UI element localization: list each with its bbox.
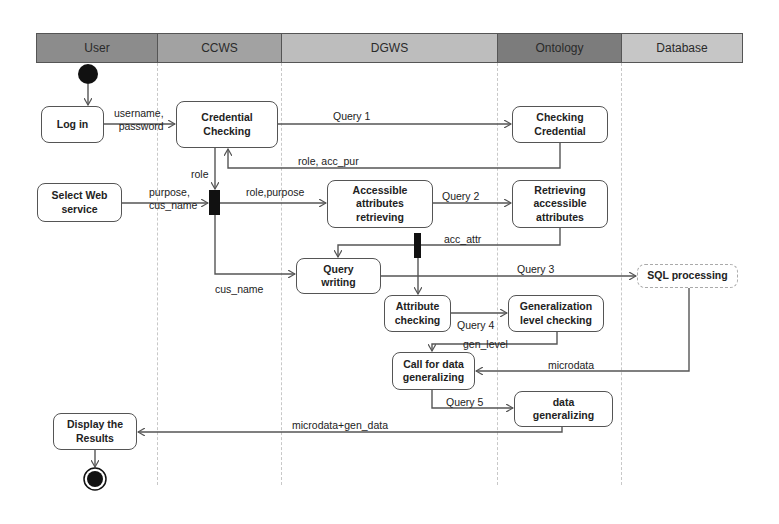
join-bar-icon [209,190,220,215]
edge-label-query5: Query 5 [446,396,483,409]
edge-label-query4: Query 4 [457,319,494,332]
node-accessible-attributes-retrieving: Accessible attributes retrieving [327,180,433,228]
edge-label-query3: Query 3 [517,263,554,276]
node-checking-credential: Checking Credential [512,106,608,143]
node-label: Display the Results [67,418,123,444]
node-label: Query writing [321,263,355,289]
node-data-generalizing: data generalizing [514,391,613,427]
node-label: data generalizing [533,396,594,422]
node-label: SQL processing [647,269,727,282]
node-label: Select Web service [52,189,108,215]
edge-label-acc-attr: acc_attr [444,233,481,246]
node-label: Accessible attributes retrieving [353,184,408,223]
node-sql-processing: SQL processing [637,264,738,288]
edge-label-purpose-cus-name: purpose, cus_name [149,186,197,211]
edge-label-microdata: microdata [548,359,594,372]
edge-label-cus-name: cus_name [215,283,263,296]
activity-diagram: User CCWS DGWS Ontology Database [0,0,779,524]
edge-label-role-purpose: role,purpose [246,186,304,199]
node-generalization-level-checking: Generalization level checking [508,295,604,332]
node-retrieving-accessible-attributes: Retrieving accessible attributes [512,180,608,228]
node-call-for-data-generalizing: Call for data generalizing [392,352,475,390]
node-label: Checking Credential [534,111,585,137]
start-node-icon [78,64,98,84]
edge-label-username-password: username, password [114,107,164,132]
node-label: Retrieving accessible attributes [533,184,586,223]
node-credential-checking: Credential Checking [176,101,278,148]
edge-label-role: role [191,168,209,181]
node-label: Credential Checking [201,111,252,137]
edge-label-microdata-gen-data: microdata+gen_data [292,419,388,432]
edge-label-gen-level: gen_level [463,338,508,351]
node-label: Generalization level checking [520,300,592,326]
edge-label-query1: Query 1 [333,110,370,123]
node-login: Log in [41,106,104,143]
node-display-results: Display the Results [53,413,137,450]
edge-label-query2: Query 2 [442,190,479,203]
node-label: Log in [57,118,89,131]
edge-label-role-acc-pur: role, acc_pur [298,155,359,168]
node-attribute-checking: Attribute checking [384,295,451,332]
node-query-writing: Query writing [296,258,381,294]
node-select-web-service: Select Web service [37,183,122,222]
fork-bar-icon [414,233,421,258]
node-label: Attribute checking [395,300,441,326]
node-label: Call for data generalizing [403,358,464,384]
